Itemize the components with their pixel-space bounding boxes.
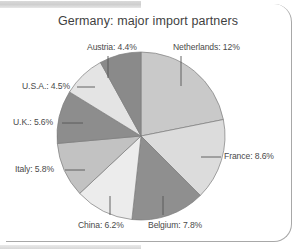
figure-page: Germany: major import partners Austria: … [0, 0, 296, 249]
pie-label-netherlands: Netherlands: 12% [173, 42, 240, 52]
pie-label-usa: U.S.A.: 4.5% [22, 81, 70, 91]
pie-label-uk: U.K.: 5.6% [13, 117, 53, 127]
pie-label-china: China: 6.2% [78, 220, 124, 230]
pie-label-france: France: 8.6% [224, 151, 274, 161]
pie-label-italy: Italy: 5.8% [15, 164, 54, 174]
pie-label-austria: Austria: 4.4% [87, 42, 137, 52]
pie-slice-group [57, 52, 225, 220]
pie-label-belgium: Belgium: 7.8% [148, 220, 202, 230]
